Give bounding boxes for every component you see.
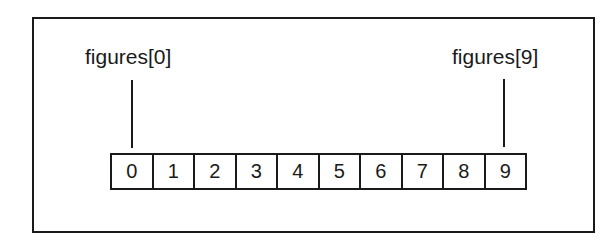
array-cell: 6	[361, 155, 403, 188]
array-cell: 2	[195, 155, 237, 188]
array-cell: 3	[237, 155, 279, 188]
pointer-line-first	[131, 80, 133, 148]
array-cell: 7	[403, 155, 445, 188]
label-first-element: figures[0]	[85, 45, 171, 69]
array-cell: 5	[320, 155, 362, 188]
label-last-element: figures[9]	[452, 45, 538, 69]
array-cell: 8	[444, 155, 486, 188]
array-cell: 4	[278, 155, 320, 188]
array-cell: 0	[112, 155, 154, 188]
array-cell: 9	[486, 155, 528, 188]
array-cell: 1	[154, 155, 196, 188]
array-cells: 0 1 2 3 4 5 6 7 8 9	[110, 153, 527, 190]
pointer-line-last	[503, 79, 505, 147]
